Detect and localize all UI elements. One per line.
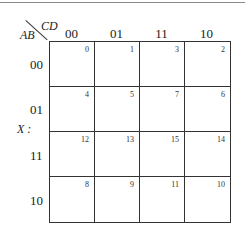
kmap-cell: 2	[185, 42, 230, 87]
row-header: 10	[30, 193, 43, 209]
minterm-index: 1	[130, 45, 134, 54]
column-header: 11	[139, 26, 184, 42]
kmap-cell: 12	[50, 132, 95, 177]
kmap-cell: 8	[50, 177, 95, 222]
kmap-cell: 0	[50, 42, 95, 87]
row-header: 00	[30, 57, 43, 73]
kmap-cell: 11	[140, 177, 185, 222]
minterm-index: 14	[217, 135, 225, 144]
kmap-cell: 1	[95, 42, 140, 87]
row-header: 01	[30, 102, 43, 118]
minterm-index: 0	[85, 45, 89, 54]
kmap-cell: 4	[50, 87, 95, 132]
minterm-index: 9	[130, 180, 134, 189]
minterm-index: 11	[171, 180, 179, 189]
row-variable-label: AB	[20, 28, 35, 43]
minterm-index: 13	[126, 135, 134, 144]
kmap-cell: 7	[140, 87, 185, 132]
column-header: 10	[184, 26, 229, 42]
column-header: 00	[49, 26, 94, 42]
minterm-index: 5	[130, 90, 134, 99]
kmap-cell: 13	[95, 132, 140, 177]
kmap-cell: 9	[95, 177, 140, 222]
top-rule	[0, 2, 245, 3]
minterm-index: 7	[175, 90, 179, 99]
kmap-cell: 15	[140, 132, 185, 177]
kmap-cell: 5	[95, 87, 140, 132]
minterm-index: 15	[171, 135, 179, 144]
minterm-index: 4	[85, 90, 89, 99]
function-label: X :	[17, 122, 31, 137]
minterm-index: 6	[221, 90, 225, 99]
column-header: 01	[94, 26, 139, 42]
minterm-index: 10	[217, 180, 225, 189]
kmap-cell: 3	[140, 42, 185, 87]
minterm-index: 12	[81, 135, 89, 144]
kmap-cell: 6	[185, 87, 230, 132]
kmap-cell: 14	[185, 132, 230, 177]
minterm-index: 8	[85, 180, 89, 189]
karnaugh-map-grid: 0 1 3 2 4 5 7 6 12 13 15 14 8 9 11 10	[49, 41, 231, 223]
row-header: 11	[30, 148, 43, 164]
minterm-index: 3	[175, 45, 179, 54]
kmap-cell: 10	[185, 177, 230, 222]
minterm-index: 2	[221, 45, 225, 54]
